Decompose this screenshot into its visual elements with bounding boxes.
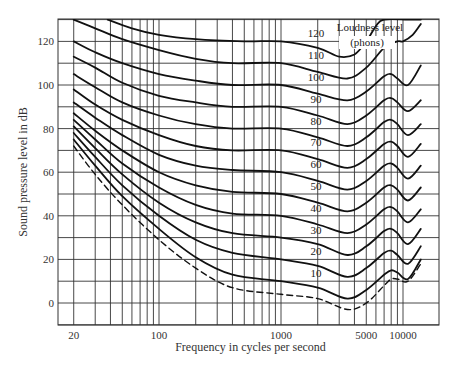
curve-10 [74, 140, 421, 299]
y-axis-ticks: 020406080100120 [38, 35, 55, 309]
phon-label-120: 120 [308, 27, 325, 39]
curve-30 [74, 126, 421, 255]
y-tick-label: 60 [43, 166, 55, 178]
x-axis-label: Frequency in cycles per second [175, 340, 326, 354]
phon-label-10: 10 [311, 267, 323, 279]
y-tick-label: 40 [43, 210, 55, 222]
y-axis-label: Sound pressure level in dB [16, 107, 30, 236]
phon-label-110: 110 [308, 49, 325, 61]
y-tick-label: 120 [38, 35, 55, 47]
x-tick-label: 100 [151, 329, 168, 341]
phon-label-90: 90 [311, 93, 323, 105]
x-tick-label: 20 [68, 329, 80, 341]
y-tick-label: 100 [38, 79, 55, 91]
curve-100 [74, 41, 421, 100]
y-tick-label: 20 [43, 253, 55, 265]
phon-label-50: 50 [311, 180, 323, 192]
phon-label-100: 100 [308, 71, 325, 83]
phon-label-70: 70 [311, 136, 323, 148]
grid-lines [58, 19, 439, 325]
phon-label-60: 60 [311, 158, 323, 170]
phon-label-20: 20 [311, 245, 323, 257]
legend-title: Loudness level [337, 21, 403, 33]
x-tick-label: 10000 [389, 329, 417, 341]
y-tick-label: 0 [49, 297, 55, 309]
phon-label-30: 30 [311, 224, 323, 236]
legend-unit: (phons) [350, 36, 384, 49]
equal-loudness-chart: 120110100908070605040302010 020406080100… [0, 0, 457, 373]
phon-label-80: 80 [311, 115, 323, 127]
y-tick-label: 80 [43, 123, 55, 135]
x-tick-label: 5000 [355, 329, 378, 341]
phon-label-40: 40 [311, 202, 323, 214]
loudness-curves [74, 19, 421, 310]
curve-20 [74, 133, 421, 277]
